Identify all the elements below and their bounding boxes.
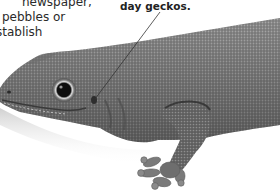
book-page: newspaper, pebbles or stablish i day gec… [0, 0, 280, 191]
body-text-line: pebbles or [2, 10, 116, 25]
gecko-eye [52, 78, 76, 102]
body-text-line: stablish [0, 25, 116, 40]
body-text: newspaper, pebbles or stablish i [0, 0, 116, 55]
callout-label: day geckos. [120, 0, 191, 12]
body-text-line: newspaper, [22, 0, 116, 10]
body-text-line: i [0, 40, 116, 55]
